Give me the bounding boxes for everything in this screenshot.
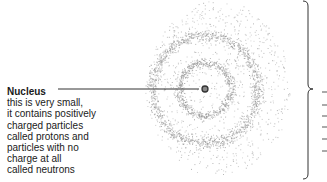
cropped-text-fragment	[322, 150, 327, 152]
nucleus-label-line: charge at all	[7, 153, 96, 164]
nucleus-icon	[202, 86, 208, 92]
nucleus-label-line: particles with no	[7, 142, 96, 153]
brace-icon	[303, 1, 313, 179]
cropped-text-fragment	[322, 91, 327, 93]
electron-cloud	[145, 1, 290, 175]
cropped-text-fragment	[322, 138, 327, 140]
cropped-text-fragment	[322, 115, 327, 117]
nucleus-label-line: called protons and	[7, 131, 96, 142]
nucleus-label-line: this is very small,	[7, 97, 96, 108]
nucleus-label-title: Nucleus	[7, 86, 96, 97]
nucleus-label-line: charged particles	[7, 120, 96, 131]
nucleus-label-line: it contains positively	[7, 108, 96, 119]
nucleus-label: Nucleus this is very small, it contains …	[7, 86, 96, 176]
cropped-text-fragment	[322, 126, 327, 128]
cropped-text-fragment	[322, 104, 327, 106]
nucleus-label-line: called neutrons	[7, 164, 96, 175]
